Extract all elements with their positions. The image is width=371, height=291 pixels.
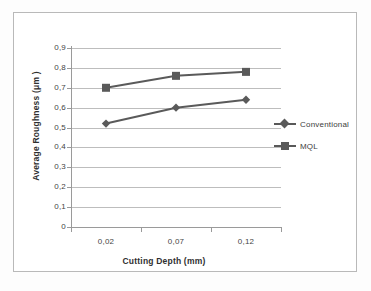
diamond-marker-icon	[172, 103, 180, 111]
y-axis-title: Average Roughness (μm )	[31, 46, 41, 206]
diamond-marker-icon	[242, 96, 250, 104]
legend-label-conventional: Conventional	[296, 120, 349, 129]
square-marker-icon	[172, 72, 180, 80]
diamond-marker-icon	[274, 118, 296, 130]
chart-legend: Conventional MQL	[274, 113, 358, 157]
legend-entry-mql[interactable]: MQL	[274, 135, 358, 157]
figure-frame: 00,10,20,30,40,50,60,70,80,9 0,020,070,1…	[13, 12, 357, 272]
legend-label-mql: MQL	[296, 142, 318, 151]
square-marker-icon	[102, 84, 110, 92]
diamond-marker-icon	[102, 119, 110, 127]
chart-plot-area: 00,10,20,30,40,50,60,70,80,9 0,020,070,1…	[14, 13, 358, 273]
square-marker-icon	[274, 140, 296, 152]
legend-entry-conventional[interactable]: Conventional	[274, 113, 358, 135]
x-axis-title: Cutting Depth (mm)	[14, 256, 314, 266]
chart-screenshot: 00,10,20,30,40,50,60,70,80,9 0,020,070,1…	[0, 0, 371, 291]
square-marker-icon	[242, 68, 250, 76]
